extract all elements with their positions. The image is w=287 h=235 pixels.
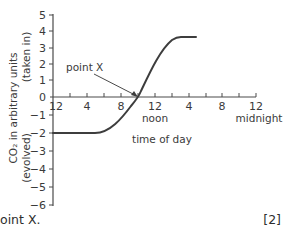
co2-chart: 5 4 3 2 1 0 −1 −2 −3 −4 −5 −6 12 4 8 12 … [0, 0, 287, 235]
y-tick-label: 0 [39, 91, 46, 104]
y-tick-label: −5 [30, 181, 46, 194]
y-axis-evolved: (evolved) [20, 133, 32, 183]
point-x-arrow [94, 74, 135, 95]
y-tick-labels: 5 4 3 2 1 0 −1 −2 −3 −4 −5 −6 [30, 9, 46, 212]
marks-label: [2] [263, 212, 281, 227]
y-tick-label: 3 [39, 42, 46, 55]
midnight-label: midnight [236, 112, 283, 124]
x-tick-label: 8 [118, 100, 125, 113]
x-tick-labels: 12 4 8 12 4 8 12 noon midnight [49, 100, 282, 124]
x-axis-title: time of day [132, 133, 192, 145]
x-tick-label: 12 [49, 100, 63, 113]
y-tick-label: −3 [30, 145, 46, 158]
arrow-head-icon [131, 91, 138, 97]
y-axis-lower-label: (evolved) [20, 133, 32, 183]
y-tick-label: −2 [30, 127, 46, 140]
y-tick-label: 1 [39, 74, 46, 87]
noon-label: noon [142, 112, 168, 124]
x-tick-label: 4 [84, 100, 91, 113]
y-tick-label: 2 [39, 58, 46, 71]
x-tick-label: 4 [186, 100, 193, 113]
y-axis-title-main: CO₂ in arbitrary units [7, 53, 19, 164]
x-tick-label: 8 [219, 100, 226, 113]
y-tick-label: 5 [39, 9, 46, 22]
point-x-label: point X [66, 61, 103, 73]
y-tick-label: 4 [39, 25, 46, 38]
co2-curve [53, 37, 196, 133]
y-axis-taken-in: (taken in) [20, 32, 32, 82]
y-axis-upper-label: (taken in) [20, 32, 32, 82]
y-tick-label: −4 [30, 163, 46, 176]
question-text: oint X. [0, 212, 40, 227]
y-tick-label: −6 [30, 199, 46, 212]
y-axis-title: CO₂ in arbitrary units [7, 53, 19, 164]
y-tick-label: −1 [30, 109, 46, 122]
